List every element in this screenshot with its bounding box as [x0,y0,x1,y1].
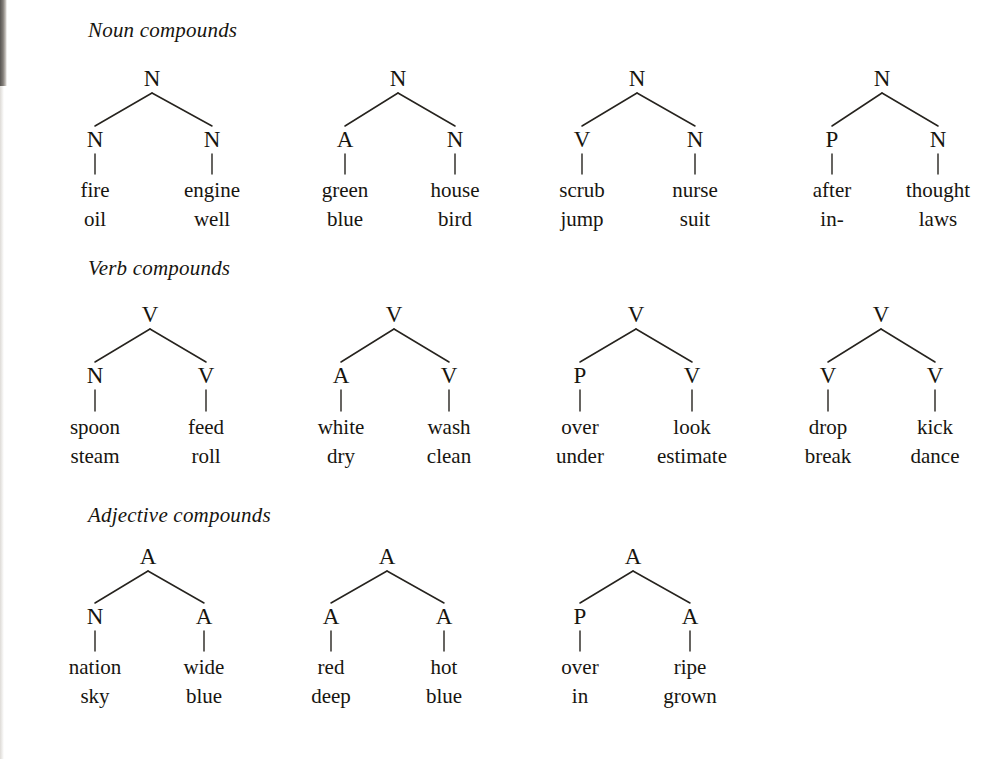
leaf-word: feed [188,417,224,438]
leaf-word: after [813,180,851,201]
section-heading-verb-compounds: Verb compounds [88,256,230,281]
tree-root-node: N [874,67,891,90]
tree-child-node-left: N [87,364,104,387]
tree-child-node-right: V [198,364,215,387]
leaf-word: roll [191,446,220,467]
tree-branches [0,0,1004,759]
tree-branches [0,0,1004,759]
leaf-word: blue [327,209,363,230]
section-heading-noun-compounds: Noun compounds [88,18,237,43]
leaf-word: ripe [674,657,707,678]
leaf-word: fire [80,180,109,201]
tree-child-node-right: N [930,128,947,151]
leaf-word: break [805,446,852,467]
tree-root-node: V [386,303,403,326]
tree-child-node-right: A [682,605,699,628]
tree-branches [0,0,1004,759]
leaf-word: estimate [657,446,727,467]
tree-root-node: N [390,67,407,90]
leaf-word: deep [311,686,351,707]
tree-child-node-left: V [574,128,591,151]
leaf-word: laws [919,209,958,230]
leaf-word: well [194,209,230,230]
tree-child-node-left: P [574,605,587,628]
tree-branches [0,0,1004,759]
tree-child-node-left: N [87,128,104,151]
tree-branches [0,0,1004,759]
tree-child-node-right: V [927,364,944,387]
tree-branches [0,0,1004,759]
tree-child-node-right: A [196,605,213,628]
leaf-word: jump [560,209,603,230]
tree-child-node-left: A [333,364,350,387]
leaf-word: grown [663,686,717,707]
tree-child-node-right: N [447,128,464,151]
tree-child-node-right: N [204,128,221,151]
tree-child-node-left: P [574,364,587,387]
leaf-word: suit [680,209,710,230]
leaf-word: under [556,446,604,467]
leaf-word: spoon [70,417,120,438]
leaf-word: nation [69,657,122,678]
tree-child-node-right: V [441,364,458,387]
tree-branches [0,0,1004,759]
tree-root-node: V [628,303,645,326]
tree-branches [0,0,1004,759]
tree-child-node-right: V [684,364,701,387]
leaf-word: look [673,417,710,438]
leaf-word: dance [911,446,960,467]
leaf-word: oil [84,209,106,230]
tree-child-node-right: A [436,605,453,628]
leaf-word: red [318,657,345,678]
tree-branches [0,0,1004,759]
leaf-word: nurse [672,180,718,201]
section-heading-adjective-compounds: Adjective compounds [88,503,271,528]
tree-root-node: A [140,545,157,568]
leaf-word: thought [906,180,970,201]
tree-branches [0,0,1004,759]
leaf-word: wide [184,657,225,678]
leaf-word: bird [438,209,472,230]
tree-root-node: A [379,545,396,568]
leaf-word: kick [917,417,953,438]
leaf-word: engine [184,180,240,201]
leaf-word: drop [809,417,848,438]
leaf-word: over [561,417,598,438]
tree-child-node-right: N [687,128,704,151]
tree-child-node-left: A [337,128,354,151]
tree-root-node: N [144,67,161,90]
scan-edge-artifact [0,0,7,86]
tree-child-node-left: N [87,605,104,628]
tree-child-node-left: P [826,128,839,151]
leaf-word: in- [820,209,843,230]
leaf-word: blue [186,686,222,707]
tree-child-node-left: V [820,364,837,387]
leaf-word: green [322,180,369,201]
leaf-word: scrub [559,180,605,201]
tree-root-node: A [625,545,642,568]
leaf-word: blue [426,686,462,707]
leaf-word: steam [71,446,120,467]
leaf-word: clean [427,446,471,467]
tree-branches [0,0,1004,759]
scan-edge-artifact-lower [0,86,4,759]
leaf-word: in [572,686,588,707]
tree-root-node: N [629,67,646,90]
leaf-word: wash [427,417,470,438]
leaf-word: white [318,417,365,438]
tree-root-node: V [142,303,159,326]
leaf-word: sky [80,686,109,707]
leaf-word: dry [327,446,355,467]
leaf-word: house [431,180,480,201]
leaf-word: over [561,657,598,678]
leaf-word: hot [431,657,458,678]
tree-root-node: V [873,303,890,326]
tree-child-node-left: A [323,605,340,628]
